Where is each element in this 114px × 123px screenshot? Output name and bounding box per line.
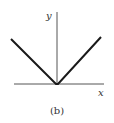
y-axis-label: y bbox=[46, 11, 52, 21]
figure-caption: (b) bbox=[0, 106, 114, 116]
x-axis-label: x bbox=[98, 88, 104, 98]
abs-value-curve bbox=[11, 37, 101, 84]
diagram-figure: y x (b) bbox=[0, 0, 114, 123]
